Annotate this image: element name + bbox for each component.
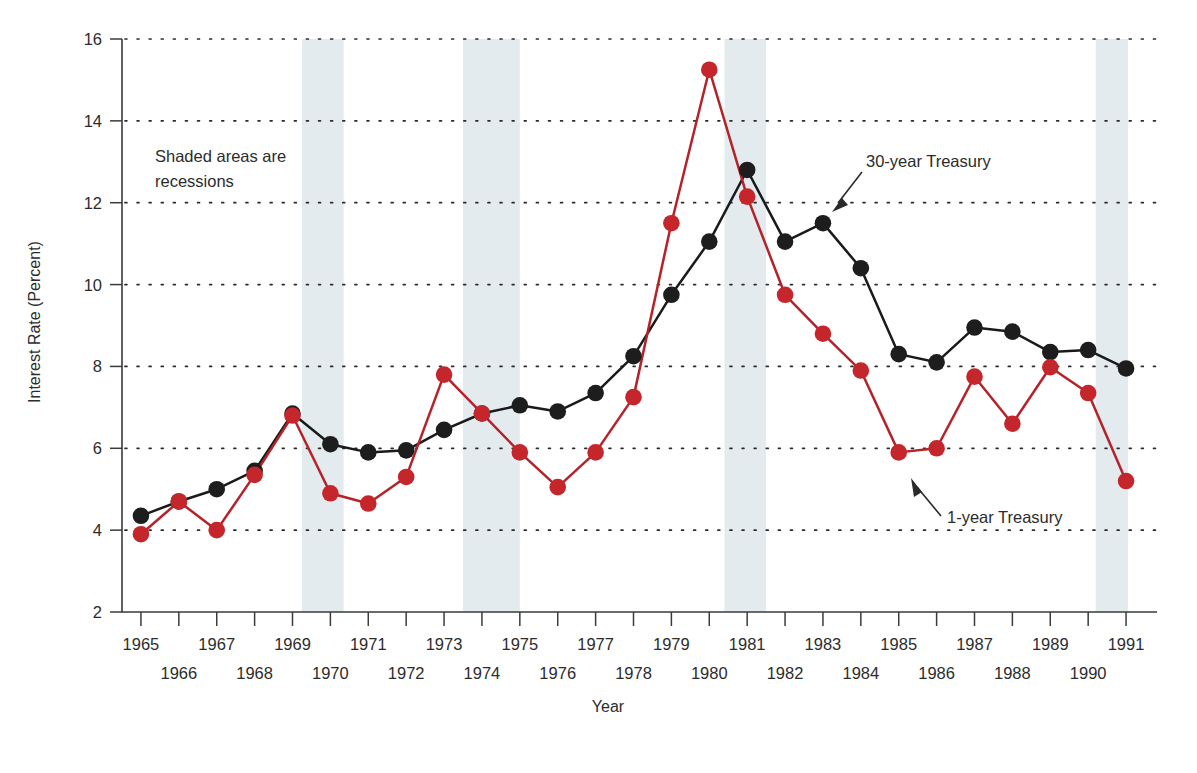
data-point-marker: [928, 354, 945, 371]
data-point-marker: [1004, 323, 1021, 340]
data-point-marker: [360, 444, 377, 461]
annotation-30-year-treasury: 30-year Treasury: [866, 152, 991, 170]
data-point-marker: [549, 403, 566, 420]
x-tick-label: 1989: [1032, 635, 1069, 653]
x-tick-label: 1968: [236, 664, 273, 682]
y-tick-label: 2: [93, 603, 102, 621]
recession-note-line2: recessions: [155, 172, 234, 190]
data-point-marker: [663, 287, 680, 304]
data-point-marker: [1042, 359, 1059, 376]
data-point-marker: [474, 405, 491, 422]
recession-bands-group: [302, 39, 1128, 612]
annotation-30-year-arrow: [832, 172, 862, 212]
x-tick-label: 1977: [577, 635, 614, 653]
y-tick-label: 16: [84, 30, 102, 48]
interest-rate-line-chart: 246810121416 196519671969197119731975197…: [0, 0, 1197, 773]
axis-lines: [122, 39, 1157, 612]
data-point-marker: [587, 385, 604, 402]
series-line-red: [141, 70, 1126, 535]
x-tick-label: 1976: [539, 664, 576, 682]
recession-band: [463, 39, 520, 612]
x-axis-title: Year: [592, 698, 625, 715]
x-tick-label: 1983: [805, 635, 842, 653]
data-point-marker: [587, 444, 604, 461]
data-point-marker: [777, 233, 794, 250]
x-tick-label: 1979: [653, 635, 690, 653]
x-tick-marks-group: [141, 612, 1126, 626]
data-point-marker: [663, 215, 680, 232]
data-point-marker: [928, 440, 945, 457]
data-point-marker: [853, 260, 870, 277]
data-point-marker: [398, 469, 415, 486]
data-point-marker: [777, 287, 794, 304]
data-point-marker: [739, 162, 756, 179]
x-tick-label: 1975: [501, 635, 538, 653]
data-point-marker: [322, 436, 339, 453]
data-point-marker: [1042, 344, 1059, 361]
data-point-marker: [739, 188, 756, 205]
data-point-marker: [853, 362, 870, 379]
x-tick-label: 1971: [350, 635, 387, 653]
chart-figure: 246810121416 196519671969197119731975197…: [0, 0, 1197, 773]
x-tick-label: 1985: [880, 635, 917, 653]
x-tick-label: 1982: [767, 664, 804, 682]
data-point-marker: [512, 444, 529, 461]
data-point-marker: [322, 485, 339, 502]
data-point-marker: [701, 233, 718, 250]
x-tick-label: 1974: [464, 664, 501, 682]
x-tick-label: 1970: [312, 664, 349, 682]
data-point-marker: [208, 481, 225, 498]
data-point-marker: [890, 346, 907, 363]
data-point-marker: [436, 366, 453, 383]
x-tick-label: 1981: [729, 635, 766, 653]
x-tick-label: 1978: [615, 664, 652, 682]
y-tick-label: 14: [84, 112, 102, 130]
y-tick-labels-group: 246810121416: [84, 30, 102, 621]
data-point-marker: [815, 325, 832, 342]
series-markers-group: [133, 61, 1135, 542]
data-point-marker: [890, 444, 907, 461]
data-point-marker: [549, 479, 566, 496]
gridlines-group: [125, 39, 1157, 530]
x-tick-label: 1988: [994, 664, 1031, 682]
data-point-marker: [512, 397, 529, 414]
data-point-marker: [398, 442, 415, 459]
series-lines-group: [141, 70, 1126, 535]
data-point-marker: [208, 522, 225, 539]
y-axis-title: Interest Rate (Percent): [26, 241, 43, 403]
data-point-marker: [1118, 360, 1135, 377]
x-tick-label: 1984: [842, 664, 879, 682]
x-tick-label: 1990: [1070, 664, 1107, 682]
annotation-1-year-arrow: [911, 478, 941, 516]
data-point-marker: [1080, 385, 1097, 402]
data-point-marker: [625, 389, 642, 406]
data-point-marker: [966, 368, 983, 385]
data-point-marker: [360, 495, 377, 512]
y-tick-label: 12: [84, 194, 102, 212]
x-tick-label: 1967: [198, 635, 235, 653]
recession-band: [724, 39, 766, 612]
y-tick-label: 4: [93, 521, 102, 539]
data-point-marker: [133, 526, 150, 543]
data-point-marker: [1080, 342, 1097, 359]
axes-group: [110, 39, 1157, 612]
data-point-marker: [171, 493, 188, 510]
x-tick-label: 1980: [691, 664, 728, 682]
x-tick-label: 1972: [388, 664, 425, 682]
data-point-marker: [436, 422, 453, 439]
data-point-marker: [815, 215, 832, 232]
y-tick-label: 8: [93, 357, 102, 375]
data-point-marker: [625, 348, 642, 365]
data-point-marker: [966, 319, 983, 336]
annotation-1-year-treasury: 1-year Treasury: [947, 508, 1063, 526]
recession-band: [1096, 39, 1128, 612]
recession-band: [302, 39, 344, 612]
x-tick-label: 1991: [1108, 635, 1145, 653]
y-tick-label: 6: [93, 439, 102, 457]
data-point-marker: [701, 61, 718, 78]
x-tick-label: 1987: [956, 635, 993, 653]
recession-note-line1: Shaded areas are: [155, 147, 286, 165]
x-tick-label: 1966: [160, 664, 197, 682]
x-tick-label: 1973: [426, 635, 463, 653]
data-point-marker: [1004, 415, 1021, 432]
